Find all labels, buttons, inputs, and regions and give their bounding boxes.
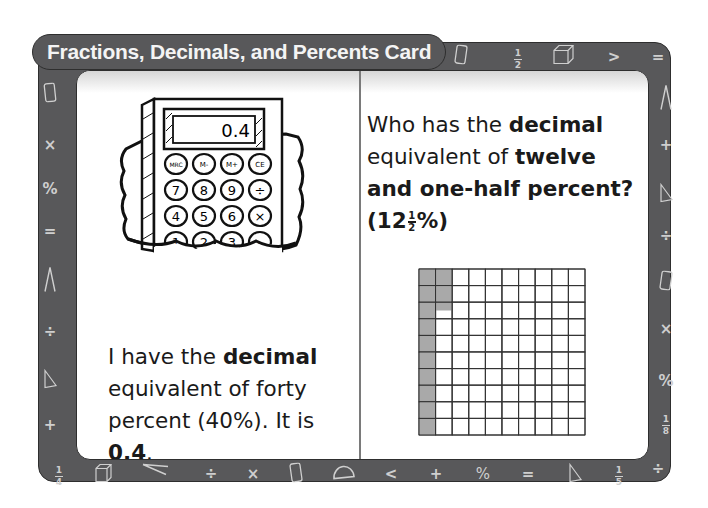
fraction-one-half: 12 [514,44,522,70]
divide-icon: ÷ [652,462,665,477]
plus-icon: + [660,138,673,153]
calculator-key-label: × [255,209,266,224]
grid-cell [485,352,502,369]
grid-cell [452,402,469,419]
grid-cell [469,352,486,369]
grid-cell [535,418,552,435]
grid-cell [469,302,486,319]
grid-cell-shaded [420,270,436,286]
calculator-key-label: 7 [172,183,180,198]
grid-cell-shaded [420,402,436,418]
grid-cell [502,319,519,336]
cylinder-icon [43,83,57,106]
grid-cell [519,302,536,319]
grid-cell [568,352,585,369]
grid-cell [552,418,569,435]
grid-cell [519,385,536,402]
grid-cell [552,402,569,419]
grid-cell [485,319,502,336]
triangle-icon [42,369,58,392]
grid-cell [436,418,453,435]
grid-cell [552,319,569,336]
card-body: 0.4 MRCM-M+CE789÷456×123- I have the dec… [76,70,649,460]
plus-icon: + [44,418,57,433]
grid-cell-shaded [420,286,436,302]
fraction-one-half: 12 [408,211,416,233]
cube-icon [94,463,112,486]
grid-cell [502,286,519,303]
grid-cell [568,286,585,303]
calculator-key-label: 8 [200,183,208,198]
grid-cell [485,269,502,286]
grid-cell [436,335,453,352]
calculator-key-label: 5 [200,209,208,224]
fraction-one-fifth: 15 [615,461,623,487]
percent-icon: % [42,182,57,197]
calculator-key-label: M+ [226,161,238,169]
grid-cell [436,319,453,336]
grid-cell [568,369,585,386]
grid-cell [568,302,585,319]
triangle-icon [567,463,583,486]
grid-cell [519,319,536,336]
equals-icon: = [522,467,535,482]
grid-cell [469,335,486,352]
grid-cell [519,269,536,286]
calculator-key-label: 6 [228,209,236,224]
grid-cell [519,418,536,435]
grid-cell [485,286,502,303]
grid-cell [535,286,552,303]
grid-cell [485,335,502,352]
grid-cell [535,335,552,352]
cylinder-icon [289,463,303,486]
grid-cell [469,319,486,336]
plus-icon: + [430,467,443,482]
grid-cell [568,319,585,336]
grid-cell [502,302,519,319]
grid-cell [485,402,502,419]
calculator-key-label: MRC [169,161,182,168]
divide-icon: ÷ [205,467,218,482]
grid-cell [452,418,469,435]
fraction-one-quarter: 14 [55,461,63,487]
grid-cell [436,402,453,419]
grid-cell [485,418,502,435]
grid-cell [502,369,519,386]
grid-cell [469,385,486,402]
grid-cell-shaded [436,303,452,311]
grid-cell-shaded [436,286,452,302]
divide-icon: ÷ [660,229,673,244]
grid-cell [535,269,552,286]
grid-cell [452,286,469,303]
grid-cell [436,352,453,369]
grid-cell [552,286,569,303]
multiply-icon: × [660,322,673,337]
compass-icon [142,463,170,480]
grid-cell [469,286,486,303]
calculator-display: 0.4 [221,120,250,141]
grid-cell [519,352,536,369]
grid-cell [469,369,486,386]
compass-icon [43,267,57,296]
grid-cell [469,418,486,435]
grid-cell [436,369,453,386]
percent-icon: % [658,374,673,389]
grid-cell [485,385,502,402]
grid-cell [452,269,469,286]
percent-icon: % [476,467,490,482]
grid-cell [502,385,519,402]
grid-cell-shaded [420,386,436,402]
panel-divider [359,71,361,459]
grid-cell [552,335,569,352]
grid-cell-shaded [436,270,452,286]
cube-icon [552,45,574,68]
divide-icon: ÷ [44,325,57,340]
calculator-illustration: 0.4 MRCM-M+CE789÷456×123- [116,79,326,263]
grid-cell [519,286,536,303]
grid-cell [519,335,536,352]
grid-cell [535,302,552,319]
fraction-one-eighth: 18 [662,410,670,436]
grid-cell [552,302,569,319]
grid-cell [568,385,585,402]
equals-icon: = [44,224,57,239]
